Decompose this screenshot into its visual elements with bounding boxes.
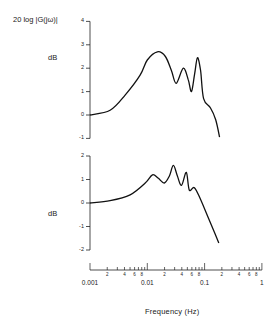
x-minor-tick-label: 4 — [123, 272, 126, 277]
top-y-tick-label: 4 — [81, 17, 84, 23]
x-minor-tick-label: 4 — [181, 272, 184, 277]
x-minor-tick-label: 2 — [163, 272, 166, 277]
top-y-tick-label: 1 — [81, 88, 84, 94]
x-minor-tick-label: 8 — [198, 272, 201, 277]
x-minor-tick-label: 8 — [140, 272, 143, 277]
x-minor-tick-label: 8 — [255, 272, 258, 277]
x-minor-tick-label: 2 — [221, 272, 224, 277]
top-db-label: dB — [48, 53, 57, 62]
top-y-tick-label: 2 — [81, 64, 84, 70]
x-decade-label: 1 — [260, 279, 264, 286]
bottom-y-tick-label: 0 — [81, 199, 84, 205]
top-y-axis-label: 20 log |G(jω)| — [13, 15, 58, 24]
bottom-y-tick-label: -1 — [79, 223, 84, 229]
top-y-tick-label: -1 — [79, 134, 84, 140]
x-minor-tick-label: 6 — [191, 272, 194, 277]
top-response-curve — [90, 52, 220, 137]
x-decade-label: 0.1 — [200, 279, 209, 286]
bottom-y-tick-label: 1 — [81, 176, 84, 182]
top-y-tick-label: 3 — [81, 41, 84, 47]
bottom-y-tick-label: 2 — [81, 152, 84, 158]
x-axis-title: Frequency (Hz) — [145, 307, 199, 316]
x-decade-label: 0.01 — [141, 279, 154, 286]
x-minor-tick-label: 4 — [238, 272, 241, 277]
bottom-db-label: dB — [48, 209, 57, 218]
frequency-response-plot — [0, 0, 275, 329]
top-y-tick-label: 0 — [81, 111, 84, 117]
bottom-y-tick-label: -2 — [79, 246, 84, 252]
x-decade-label: 0.001 — [82, 279, 98, 286]
x-minor-tick-label: 6 — [133, 272, 136, 277]
bottom-response-curve — [90, 165, 219, 243]
x-minor-tick-label: 2 — [106, 272, 109, 277]
x-minor-tick-label: 6 — [248, 272, 251, 277]
